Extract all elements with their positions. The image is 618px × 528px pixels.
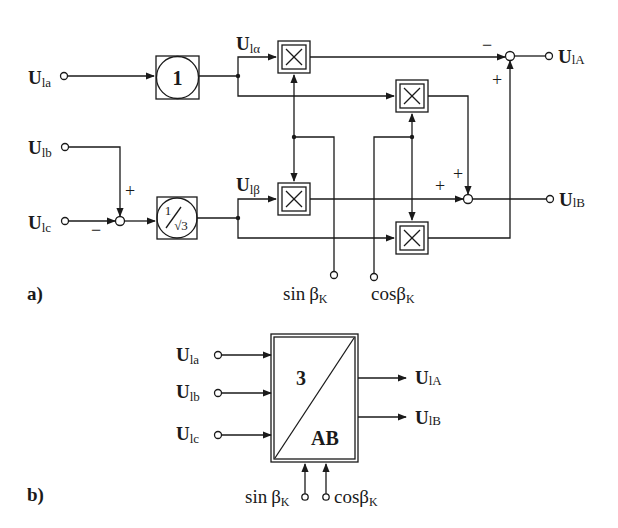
b-input-terminal-u-lc — [215, 432, 222, 439]
b-output-label-u-1A: UlA — [415, 367, 442, 388]
output-label-u-1A: UlA — [558, 46, 585, 67]
multiplier-3 — [278, 183, 310, 215]
b-input-label-u-lc: Ulc — [176, 423, 199, 446]
block-label-AB: AB — [311, 427, 339, 449]
sum-node-input — [116, 217, 125, 226]
input-label-u-lb: Ulb — [28, 137, 52, 160]
sum-node-A — [506, 52, 515, 61]
sign-plus: + — [453, 164, 463, 184]
panel-label-a: a) — [27, 283, 43, 305]
b-input-label-u-la: Ula — [176, 344, 199, 367]
sign-plus: + — [125, 181, 135, 201]
sign-plus: + — [492, 70, 502, 90]
b-input-terminal-u-lb — [215, 390, 222, 397]
b-input-label-u-lb: Ulb — [176, 381, 200, 404]
wire — [238, 218, 394, 238]
b-input-terminal-sin — [302, 494, 308, 500]
label-u-lbeta: Ulβ — [236, 174, 260, 197]
sign-minus: − — [482, 35, 492, 55]
gain-value: 1 — [173, 67, 183, 89]
label-cos-beta-k: cosβK — [371, 283, 415, 306]
panel-b: 3 AB Ula Ulb Ulc UlA UlB sinβK cosβK b) — [27, 334, 442, 509]
sign-minus: − — [91, 220, 101, 240]
b-output-label-u-1B: UlB — [415, 407, 441, 428]
panel-a: Ula 1 Ulα − U — [27, 33, 585, 306]
b-input-terminal-cos — [323, 494, 329, 500]
input-label-u-lc: Ulc — [28, 212, 51, 235]
label-u-lalpha: Ulα — [236, 33, 260, 56]
wire — [69, 147, 120, 216]
input-terminal-sin — [331, 272, 338, 279]
output-label-u-1B: UlB — [559, 189, 585, 210]
sum-node-B — [464, 195, 473, 204]
input-terminal-u-lb — [62, 144, 69, 151]
output-terminal-u-1B — [547, 196, 554, 203]
panel-label-b: b) — [27, 484, 44, 506]
input-terminal-cos — [371, 274, 378, 281]
gain-numerator: 1 — [165, 203, 172, 218]
input-terminal-u-la — [61, 73, 68, 80]
transformation-diagram: Ula 1 Ulα − U — [0, 0, 618, 528]
wire — [238, 57, 276, 76]
output-terminal-u-1A — [546, 53, 553, 60]
block-label-3: 3 — [296, 367, 306, 389]
wire — [374, 137, 412, 273]
wire — [238, 199, 276, 218]
wire — [238, 76, 394, 96]
multiplier-1 — [278, 41, 310, 73]
multiplier-4 — [396, 222, 428, 254]
wire — [294, 137, 334, 271]
gain-block-inv-sqrt3: 1 √3 — [157, 197, 197, 239]
b-label-sin-beta-k: sinβK — [245, 486, 290, 509]
b-input-terminal-u-la — [215, 352, 222, 359]
gain-denominator: √3 — [174, 218, 188, 233]
multiplier-2 — [396, 80, 428, 112]
sign-plus: + — [435, 176, 445, 196]
b-label-cos-beta-k: cosβK — [334, 486, 378, 509]
transform-block-3-to-AB: 3 AB — [271, 334, 358, 462]
gain-block-one: 1 — [156, 56, 199, 99]
input-label-u-la: Ula — [28, 67, 51, 90]
input-terminal-u-lc — [62, 218, 69, 225]
label-sin-beta-k: sinβK — [283, 283, 328, 306]
